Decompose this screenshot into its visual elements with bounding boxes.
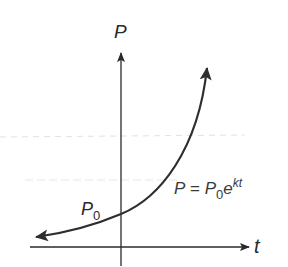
equation-exponent: kt: [233, 176, 242, 190]
horizontal-axis-label: t: [254, 236, 260, 256]
equation-coefficient: P: [205, 179, 216, 198]
intercept-label-main: P: [81, 199, 93, 219]
equation-lhs: P: [174, 179, 185, 198]
intercept-label-subscript: 0: [93, 208, 100, 223]
vertical-axis-label: P: [114, 22, 127, 41]
growth-equation: P = P0ekt: [174, 180, 242, 197]
equation-base: e: [223, 179, 232, 198]
exponential-graph-canvas: [0, 0, 288, 267]
equation-equals: =: [185, 179, 204, 198]
equation-coefficient-subscript: 0: [216, 187, 223, 202]
intercept-label: P0: [81, 200, 100, 218]
scan-artifacts: [0, 135, 245, 180]
curve-left-segment: [36, 214, 121, 237]
